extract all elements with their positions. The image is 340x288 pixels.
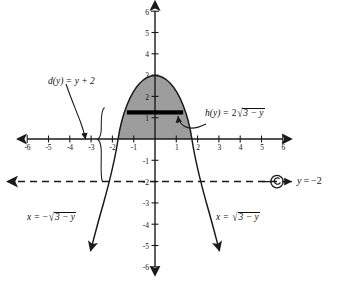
y-tick-label: -4 — [136, 221, 149, 230]
h-of-y-equals: = — [223, 108, 228, 118]
x-tick-label: 1 — [169, 143, 184, 152]
left-branch-radicand: 3 − y — [54, 212, 76, 223]
y-tick-label: -6 — [136, 263, 149, 272]
x-tick-label: -6 — [20, 143, 35, 152]
right-branch-lhs: x — [216, 212, 220, 222]
h-of-y-function: h(y) — [205, 108, 220, 118]
axis-label-equals: = — [303, 175, 309, 186]
x-tick-label: -5 — [41, 143, 56, 152]
y-tick-label: 3 — [138, 71, 149, 80]
y-tick-label: 5 — [138, 29, 149, 38]
y-tick-label: -5 — [136, 242, 149, 251]
x-tick-label: 3 — [212, 143, 227, 152]
axis-of-revolution-label: y=−2 — [297, 176, 322, 186]
d-of-y-rhs: y + 2 — [75, 76, 95, 86]
h-of-y-radical: √3 − y — [236, 108, 264, 119]
d-of-y-equals: = — [66, 76, 71, 86]
radical-sign-icon: √ — [233, 211, 238, 223]
y-tick-label: 2 — [138, 93, 149, 102]
right-branch-label: x=√3 − y — [216, 212, 260, 223]
axis-label-lhs: y — [297, 175, 301, 186]
left-branch-equals: = — [34, 212, 39, 222]
radical-sign-icon: √ — [49, 211, 54, 223]
y-tick-label: 6 — [138, 8, 149, 17]
h-of-y-label: h(y)=2√3 − y — [205, 108, 265, 119]
y-tick-label: -3 — [136, 199, 149, 208]
radical-sign-icon: √ — [237, 107, 242, 119]
d-of-y-function: d(y) — [48, 76, 63, 86]
x-tick-label: 6 — [276, 143, 291, 152]
x-tick-label: -2 — [105, 143, 120, 152]
left-branch-radical: √3 − y — [48, 212, 76, 223]
h-of-y-radicand: 3 − y — [242, 108, 264, 119]
axis-label-rhs: −2 — [311, 175, 322, 186]
y-tick-label: 4 — [138, 50, 149, 59]
representative-strip-bar — [127, 110, 183, 114]
d-of-y-pointer — [66, 84, 86, 140]
left-branch-label: x=−√3 − y — [27, 212, 76, 223]
x-tick-label: -3 — [84, 143, 99, 152]
y-tick-label: 1 — [138, 114, 149, 123]
y-tick-label: -2 — [136, 178, 149, 187]
volume-of-revolution-figure: -6 -5 -4 -3 -2 -1 1 2 3 4 5 6 6 5 4 3 2 … — [0, 0, 340, 288]
x-tick-label: 2 — [191, 143, 206, 152]
x-tick-label: 4 — [233, 143, 248, 152]
d-of-y-label: d(y)=y + 2 — [48, 77, 95, 87]
left-branch-lhs: x — [27, 212, 31, 222]
right-branch-radical: √3 − y — [232, 212, 260, 223]
x-tick-label: -4 — [63, 143, 78, 152]
x-tick-label: -1 — [126, 143, 141, 152]
right-branch-equals: = — [223, 212, 228, 222]
y-tick-label: -1 — [136, 157, 149, 166]
right-branch-radicand: 3 − y — [238, 212, 260, 223]
x-tick-label: 5 — [255, 143, 270, 152]
